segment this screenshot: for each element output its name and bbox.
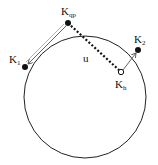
arrow-kqp-to-k1 bbox=[28, 26, 66, 64]
label-u: u bbox=[83, 52, 89, 64]
point-k2 bbox=[135, 47, 141, 53]
point-k1 bbox=[22, 64, 28, 70]
label-kh: Kh bbox=[115, 78, 127, 92]
dotted-line-u bbox=[68, 23, 120, 71]
label-k1: K1 bbox=[9, 53, 21, 67]
point-kh bbox=[118, 69, 123, 74]
point-kqp bbox=[65, 20, 71, 26]
arrow-kqp-to-k1-parallel bbox=[26, 24, 64, 62]
diagram-canvas: Kqp K1 K2 Kh u bbox=[0, 0, 158, 165]
label-kqp: Kqp bbox=[61, 5, 76, 19]
label-k2: K2 bbox=[134, 33, 146, 47]
